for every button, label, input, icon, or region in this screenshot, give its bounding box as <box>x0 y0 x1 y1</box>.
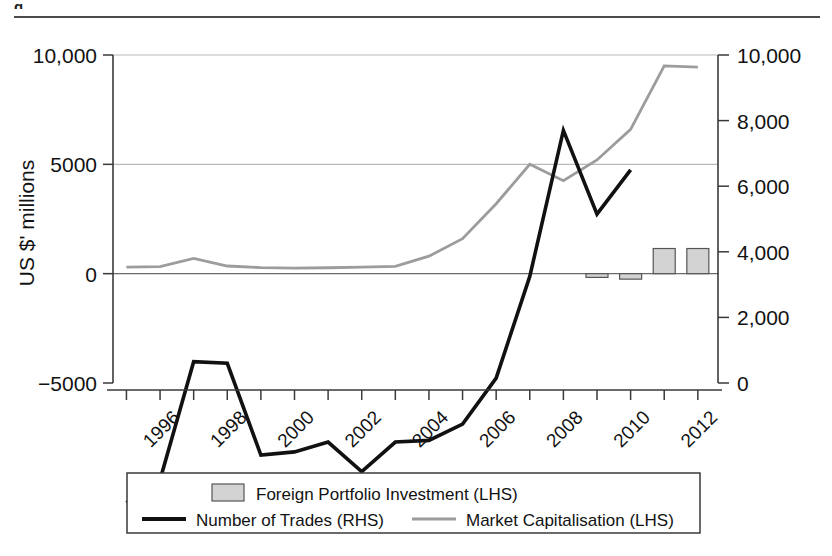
chart-canvas: −50000500010,000 02,0004,0006,0008,00010… <box>0 0 832 556</box>
right-axis-tick-labels: 02,0004,0006,0008,00010,000 <box>737 44 801 395</box>
right-tick-4000: 4,000 <box>737 241 790 264</box>
xtick-2000: 2000 <box>273 407 318 452</box>
legend-swatch-foreign-portfolio-investment <box>212 484 244 501</box>
legend-label-market-capitalisation: Market Capitalisation (LHS) <box>466 511 674 530</box>
left-tick--5000: −5000 <box>38 372 97 395</box>
xtick-2008: 2008 <box>542 407 587 452</box>
left-axis-tick-labels: −50000500010,000 <box>33 44 97 395</box>
legend-label-number-of-trades: Number of Trades (RHS) <box>196 511 384 530</box>
bar-2012 <box>687 249 709 274</box>
xtick-2012: 2012 <box>677 407 722 452</box>
right-tick-10000: 10,000 <box>737 44 801 67</box>
right-tick-0: 0 <box>737 372 749 395</box>
xtick-2006: 2006 <box>475 407 520 452</box>
xtick-2010: 2010 <box>609 407 654 452</box>
bar-2010 <box>620 274 642 279</box>
line-series-market-capitalisation <box>126 66 697 268</box>
xtick-1996: 1996 <box>139 407 184 452</box>
left-tick-10000: 10,000 <box>33 44 97 67</box>
bar-series-foreign-portfolio-investment <box>586 249 709 280</box>
right-tick-2000: 2,000 <box>737 306 790 329</box>
chart-legend: Foreign Portfolio Investment (LHS)Number… <box>127 473 700 533</box>
bar-2011 <box>653 249 675 274</box>
chart-figure: g −50000500010,000 02,0004,0006,0008,000… <box>0 0 832 556</box>
xtick-2004: 2004 <box>408 406 453 451</box>
xtick-2002: 2002 <box>340 407 385 452</box>
gridlines <box>113 55 718 164</box>
axes <box>103 55 729 400</box>
right-tick-8000: 8,000 <box>737 110 790 133</box>
bar-2009 <box>586 274 608 278</box>
header-fragment-text: g <box>14 0 30 9</box>
left-tick-0: 0 <box>85 263 97 286</box>
legend-label-foreign-portfolio-investment: Foreign Portfolio Investment (LHS) <box>256 485 518 504</box>
right-tick-6000: 6,000 <box>737 175 790 198</box>
x-axis-tick-labels: 199619982000200220042006200820102012 <box>139 406 722 451</box>
left-tick-5000: 5000 <box>50 153 97 176</box>
header-rule <box>14 16 820 18</box>
y-axis-title: US $' millions <box>15 160 38 287</box>
